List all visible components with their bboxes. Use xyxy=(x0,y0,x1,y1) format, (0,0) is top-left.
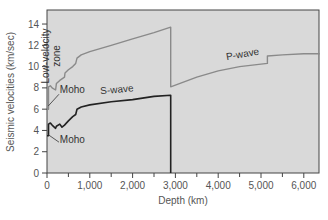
y-tick-label: 10 xyxy=(28,61,40,72)
y-axis-title: Seismic velocities (km/sec) xyxy=(5,32,16,152)
plot-area xyxy=(47,10,319,173)
y-tick-label: 8 xyxy=(33,82,39,93)
y-tick-label: 2 xyxy=(33,146,39,157)
x-axis: 01,0002,0003,0004,0005,0006,000 xyxy=(44,173,317,191)
y-tick-label: 6 xyxy=(33,104,39,115)
x-tick-label: 4,000 xyxy=(206,180,231,191)
annotation-moho: Moho xyxy=(60,84,85,95)
x-tick-label: 1,000 xyxy=(77,180,102,191)
x-tick-label: 0 xyxy=(44,180,50,191)
seismic-velocity-chart: 02468101214 01,0002,0003,0004,0005,0006,… xyxy=(0,0,328,220)
x-tick-label: 3,000 xyxy=(163,180,188,191)
y-tick-label: 4 xyxy=(33,125,39,136)
annotation-moho: Moho xyxy=(60,134,85,145)
y-tick-label: 14 xyxy=(28,19,40,30)
x-tick-label: 6,000 xyxy=(291,180,316,191)
x-axis-title: Depth (km) xyxy=(158,195,207,206)
x-tick-label: 5,000 xyxy=(248,180,273,191)
x-tick-label: 2,000 xyxy=(120,180,145,191)
y-tick-label: 0 xyxy=(33,168,39,179)
y-tick-label: 12 xyxy=(28,40,40,51)
